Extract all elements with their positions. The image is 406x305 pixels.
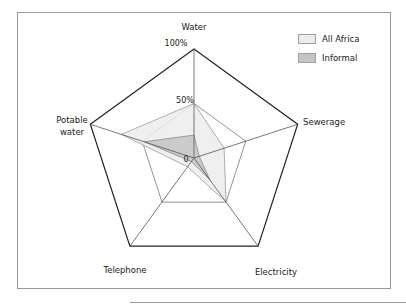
- radar-spokes: [90, 49, 297, 246]
- axis-label-sewerage: Sewerage: [303, 117, 345, 127]
- legend-swatch-all-africa: [298, 34, 316, 44]
- legend-item-all-africa: All Africa: [298, 29, 359, 48]
- legend: All Africa Informal: [298, 29, 359, 67]
- tick-label-100: 100%: [165, 39, 188, 48]
- axis-label-potable-line2: water: [60, 127, 85, 137]
- axis-label-water: Water: [181, 22, 207, 32]
- legend-item-informal: Informal: [298, 48, 359, 67]
- legend-label-informal: Informal: [322, 53, 357, 63]
- axis-label-potable-line1: Potable: [56, 115, 88, 125]
- legend-swatch-informal: [298, 53, 316, 63]
- legend-label-all-africa: All Africa: [322, 34, 359, 44]
- axis-label-electricity: Electricity: [255, 267, 297, 277]
- tick-label-50: 50%: [176, 96, 194, 105]
- axis-label-telephone: Telephone: [102, 265, 146, 275]
- tick-label-0: 0: [183, 155, 188, 164]
